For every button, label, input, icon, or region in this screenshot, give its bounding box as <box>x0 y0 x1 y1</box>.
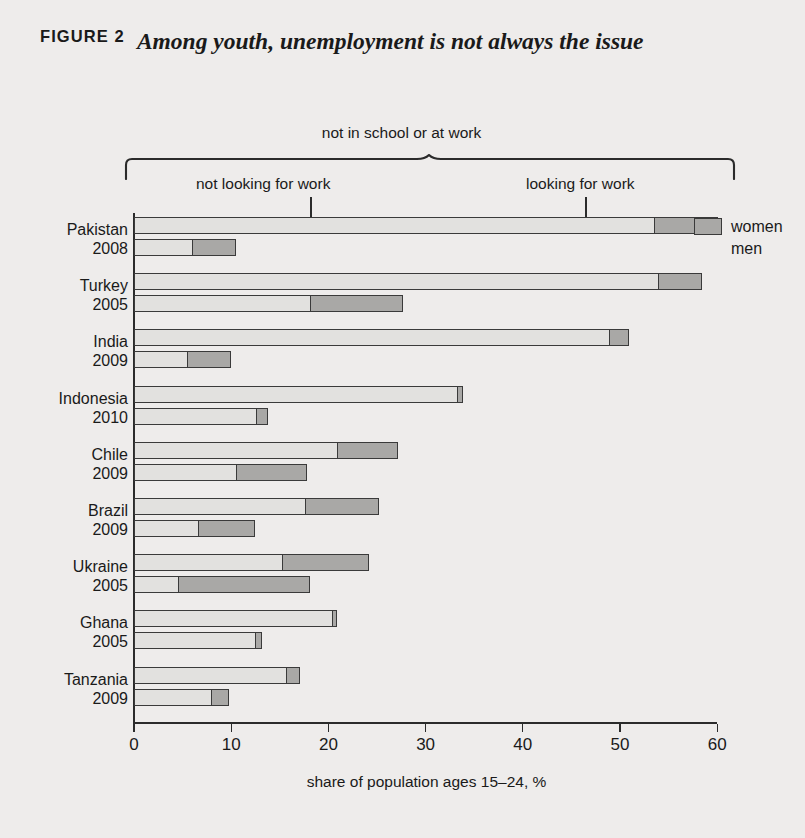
bar-segment-not-looking-for-work <box>135 499 305 514</box>
bar-segment-looking-for-work <box>178 577 309 592</box>
country-name: Chile <box>92 446 128 463</box>
bar-segment-not-looking-for-work <box>135 352 187 367</box>
bar-segment-looking-for-work <box>282 555 368 570</box>
bar-segment-not-looking-for-work <box>135 633 255 648</box>
x-axis-tick <box>717 724 718 732</box>
bar-segment-not-looking-for-work <box>135 668 286 683</box>
country-year: 2005 <box>8 632 128 651</box>
bar-segment-looking-for-work <box>211 690 228 705</box>
country-name: Brazil <box>88 502 128 519</box>
bar-segment-not-looking-for-work <box>135 409 256 424</box>
bar-men <box>134 689 229 706</box>
bar-segment-looking-for-work <box>286 668 299 683</box>
bar-men <box>134 295 403 312</box>
bar-segment-looking-for-work <box>236 465 306 480</box>
bar-segment-looking-for-work <box>256 409 268 424</box>
bar-segment-not-looking-for-work <box>135 690 211 705</box>
x-axis-tick <box>231 724 232 732</box>
legend-label-women: women <box>731 218 783 236</box>
x-axis-tick-label: 30 <box>396 735 456 755</box>
bar-segment-not-looking-for-work <box>135 218 654 233</box>
country-name: Turkey <box>80 277 128 294</box>
x-axis-title: share of population ages 15–24, % <box>0 773 805 791</box>
country-name: Pakistan <box>67 221 128 238</box>
country-name: Ghana <box>80 614 128 631</box>
bar-women <box>134 667 300 684</box>
bar-segment-not-looking-for-work <box>135 611 332 626</box>
x-axis-tick <box>619 724 620 732</box>
legend-label-men: men <box>731 240 762 258</box>
bar-segment-not-looking-for-work <box>135 240 192 255</box>
bar-segment-not-looking-for-work <box>135 465 236 480</box>
bar-men <box>134 239 236 256</box>
x-axis-tick-label: 60 <box>687 735 747 755</box>
bar-segment-not-looking-for-work <box>135 387 457 402</box>
x-axis-tick <box>328 724 329 732</box>
y-axis-category-label: Indonesia2010 <box>8 389 128 427</box>
bar-women <box>134 329 629 346</box>
x-axis-tick <box>133 724 134 732</box>
chart-area: not in school or at work not looking for… <box>0 0 805 838</box>
bar-segment-looking-for-work <box>457 387 462 402</box>
country-year: 2009 <box>8 689 128 708</box>
bar-segment-not-looking-for-work <box>135 555 282 570</box>
bracket-label-top: not in school or at work <box>0 124 805 142</box>
segment-label-not-looking: not looking for work <box>196 175 330 193</box>
bar-segment-looking-for-work <box>305 499 378 514</box>
country-year: 2005 <box>8 576 128 595</box>
bar-segment-looking-for-work <box>658 274 701 289</box>
country-year: 2005 <box>8 295 128 314</box>
bar-men <box>134 464 307 481</box>
bar-segment-not-looking-for-work <box>135 577 178 592</box>
bar-segment-looking-for-work <box>255 633 262 648</box>
legend-swatch-looking-for-work <box>694 218 722 235</box>
y-axis-category-label: Turkey2005 <box>8 276 128 314</box>
x-axis-tick-label: 50 <box>590 735 650 755</box>
bar-men <box>134 576 310 593</box>
x-axis-tick-label: 0 <box>104 735 164 755</box>
x-axis-tick-label: 20 <box>298 735 358 755</box>
bar-segment-looking-for-work <box>187 352 230 367</box>
bar-segment-not-looking-for-work <box>135 296 310 311</box>
bar-segment-not-looking-for-work <box>135 274 658 289</box>
country-name: Indonesia <box>59 390 128 407</box>
bar-women <box>134 498 379 515</box>
x-axis-tick <box>522 724 523 732</box>
segment-label-looking: looking for work <box>526 175 635 193</box>
y-axis-category-label: Ukraine2005 <box>8 557 128 595</box>
country-name: Tanzania <box>64 671 128 688</box>
country-year: 2009 <box>8 520 128 539</box>
x-axis-title-text: share of population ages 15–24, % <box>307 773 547 790</box>
bar-men <box>134 351 231 368</box>
y-axis-category-label: India2009 <box>8 332 128 370</box>
bar-women <box>134 217 718 234</box>
bar-segment-not-looking-for-work <box>135 443 337 458</box>
country-year: 2010 <box>8 408 128 427</box>
bar-segment-not-looking-for-work <box>135 330 609 345</box>
y-axis-category-label: Brazil2009 <box>8 501 128 539</box>
bar-segment-looking-for-work <box>310 296 403 311</box>
bar-men <box>134 632 262 649</box>
y-axis-category-label: Ghana2005 <box>8 613 128 651</box>
bar-women <box>134 386 463 403</box>
country-name: India <box>93 333 128 350</box>
bar-segment-looking-for-work <box>337 443 398 458</box>
y-axis-category-label: Chile2009 <box>8 445 128 483</box>
x-axis-tick-label: 40 <box>493 735 553 755</box>
y-axis-category-label: Tanzania2009 <box>8 670 128 708</box>
bar-segment-looking-for-work <box>198 521 253 536</box>
bar-segment-looking-for-work <box>332 611 336 626</box>
y-axis-category-label: Pakistan2008 <box>8 220 128 258</box>
bar-segment-looking-for-work <box>192 240 235 255</box>
bar-segment-looking-for-work <box>609 330 627 345</box>
x-axis-tick-label: 10 <box>201 735 261 755</box>
bar-women <box>134 442 398 459</box>
bar-women <box>134 554 369 571</box>
country-year: 2008 <box>8 239 128 258</box>
bar-women <box>134 273 702 290</box>
country-name: Ukraine <box>73 558 128 575</box>
x-axis-tick <box>425 724 426 732</box>
bar-women <box>134 610 337 627</box>
country-year: 2009 <box>8 351 128 370</box>
bracket-label-top-text: not in school or at work <box>322 124 481 141</box>
